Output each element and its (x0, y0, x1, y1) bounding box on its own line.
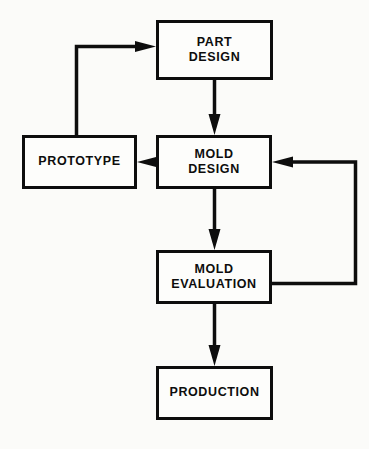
node-production-label: PRODUCTION (169, 385, 259, 400)
node-production[interactable]: PRODUCTION (156, 366, 273, 420)
edge-mold-design-to-prototype (137, 157, 158, 168)
edge-prototype-to-part-design (77, 41, 157, 135)
node-mold-design-label: MOLD DESIGN (188, 147, 240, 178)
edge-part-design-to-mold-design (209, 80, 221, 135)
edge-mold-evaluation-to-mold-design (272, 157, 356, 284)
edge-mold-evaluation-to-production (209, 304, 221, 366)
node-part-design-label: PART DESIGN (189, 35, 241, 66)
node-part-design[interactable]: PART DESIGN (156, 20, 273, 80)
flowchart-canvas: PART DESIGN PROTOTYPE MOLD DESIGN MOLD E… (0, 0, 369, 449)
node-mold-design[interactable]: MOLD DESIGN (156, 135, 272, 189)
node-prototype[interactable]: PROTOTYPE (22, 135, 137, 189)
edge-mold-design-to-mold-evaluation (209, 189, 221, 250)
node-prototype-label: PROTOTYPE (38, 154, 120, 169)
node-mold-evaluation[interactable]: MOLD EVALUATION (156, 250, 272, 304)
node-mold-evaluation-label: MOLD EVALUATION (171, 262, 256, 293)
